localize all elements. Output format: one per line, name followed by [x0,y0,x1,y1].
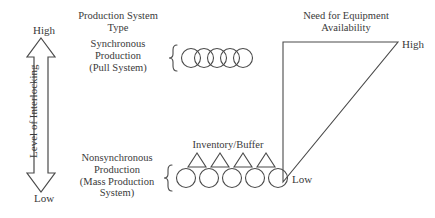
equipment-availability-high-label: High [402,38,434,50]
equipment-availability-wedge-layer [0,0,435,218]
equipment-availability-wedge [283,42,398,182]
equipment-availability-low-label: Low [292,173,324,185]
production-system-diagram: High Low Level of Interlocking Productio… [0,0,435,218]
